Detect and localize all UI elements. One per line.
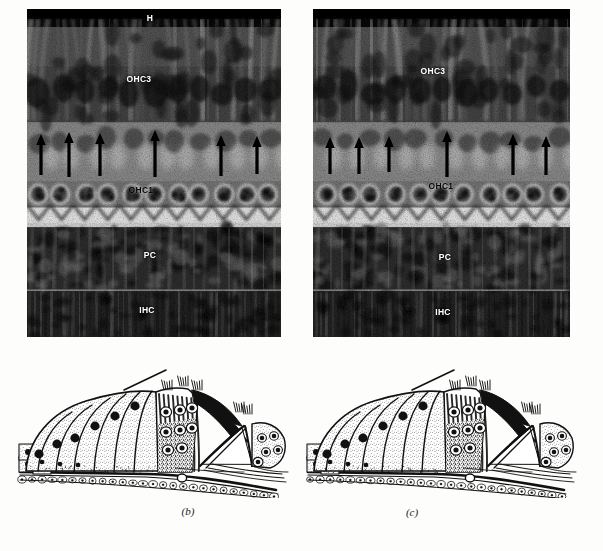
organ-of-corti-cross-section bbox=[16, 368, 298, 498]
micrograph-image bbox=[27, 9, 281, 337]
panel-caption-b: (b) bbox=[182, 505, 195, 517]
diagram-panel-b bbox=[16, 368, 298, 498]
diagram-panel-c bbox=[300, 368, 590, 498]
figure-root: HOHC3OHC1PCIHC OHC3OHC1PCIHC (b) (c) bbox=[0, 0, 603, 551]
micrograph-image bbox=[313, 9, 570, 337]
micrograph-panel-c: OHC3OHC1PCIHC bbox=[313, 9, 570, 337]
panel-caption-c: (c) bbox=[406, 506, 418, 518]
micrograph-panel-b: HOHC3OHC1PCIHC bbox=[27, 9, 281, 337]
organ-of-corti-cross-section bbox=[300, 368, 590, 498]
